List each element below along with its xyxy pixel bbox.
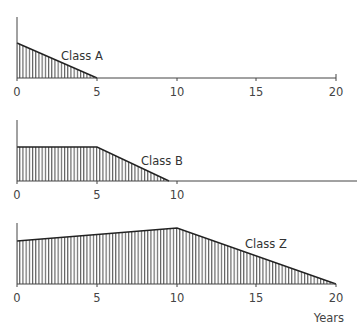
x-axis-title: Years [313,311,344,325]
class-b-label: Class B [141,154,183,168]
tick-label: 15 [249,291,264,305]
tick-label: 0 [13,188,20,202]
class-depreciation-charts: 0 5 10 15 20 Class A 0 5 10 Class B 0 5 [0,0,357,333]
chart-class-a: 0 5 10 15 20 Class A [13,17,343,99]
tick-label: 15 [249,85,264,99]
class-z-area [17,228,336,284]
class-a-label: Class A [61,49,103,63]
chart-class-b: 0 5 10 Class B [13,120,357,202]
tick-label: 20 [329,291,344,305]
tick-label: 10 [170,85,185,99]
chart-class-z: 0 5 10 15 20 Class Z Years [13,223,344,325]
tick-label: 20 [329,85,344,99]
tick-label: 0 [13,85,20,99]
tick-label: 0 [13,291,20,305]
tick-label: 10 [170,188,185,202]
tick-label: 5 [93,85,100,99]
tick-label: 10 [170,291,185,305]
class-z-label: Class Z [245,237,287,251]
tick-label: 5 [93,291,100,305]
tick-label: 5 [93,188,100,202]
